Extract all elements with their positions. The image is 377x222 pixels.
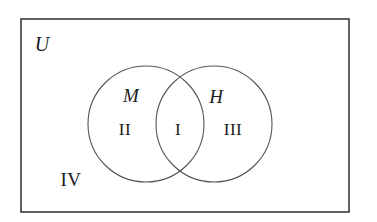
region-label-iii: III — [224, 121, 242, 138]
region-label-ii: II — [119, 121, 131, 138]
universe-label: U — [35, 34, 49, 54]
region-label-i: I — [175, 121, 181, 138]
venn-diagram-figure: U M H II I III IV — [0, 0, 377, 222]
venn-diagram-svg — [0, 0, 377, 222]
set-label-h: H — [209, 87, 223, 106]
region-label-iv: IV — [60, 170, 81, 189]
set-circle-h — [156, 66, 272, 182]
set-circle-m — [88, 66, 204, 182]
set-label-m: M — [123, 86, 139, 105]
